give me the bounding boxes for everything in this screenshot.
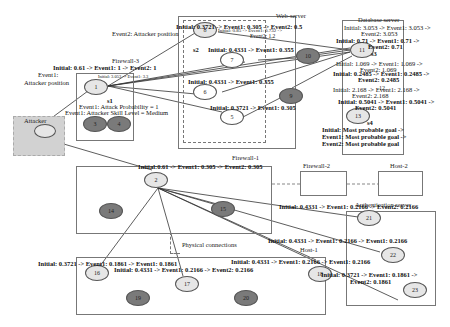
- annotation-goal-2: Event1: Most probable goal ->: [322, 133, 406, 140]
- annotation-node18-prob: Initial: 0.4331 -> Event1: 0.2166 -> Eve…: [231, 258, 370, 265]
- annotation-event2-attacker: Event2: Attacker position: [112, 30, 178, 37]
- zone-label-attacker: Attacker: [24, 117, 46, 124]
- zone-label-database-server: Database server: [358, 16, 399, 23]
- node-16[interactable]: 16: [85, 265, 109, 281]
- state-label-s3: s3: [371, 50, 377, 57]
- state-label-s4: s4: [367, 119, 373, 126]
- node-14[interactable]: 14: [99, 203, 123, 219]
- annotation-node23-prob-2: Event2: 0.1861: [350, 278, 391, 285]
- annotation-node5-prob: Initial: 0.3721 -> Event1: 0.305: [210, 104, 296, 111]
- node-1[interactable]: 1: [84, 79, 108, 95]
- annotation-node12-prob-2: Event2: 0.2485: [358, 76, 399, 83]
- zone-label-host-1: Host-1: [300, 246, 318, 253]
- annotation-goal-3: Event2: Most probable goal: [322, 140, 399, 147]
- annotation-node8-small-2: Event2: 1.2: [250, 33, 275, 40]
- annotation-goal-1: Initial: Most probable goal ->: [322, 126, 404, 133]
- zone-firewall-1: [76, 166, 272, 234]
- zone-label-physical-connections: Physical connections: [182, 241, 237, 248]
- node-17[interactable]: 17: [175, 276, 199, 292]
- annotation-node7-prob: Initial: 0.4331 -> Event1: 0.355: [208, 46, 294, 53]
- annotation-node22-prob: Initial: 0.4331 -> Event1: 0.2166 -> Eve…: [268, 237, 407, 244]
- node-2[interactable]: 2: [144, 172, 168, 188]
- node-15[interactable]: 15: [211, 201, 235, 217]
- annotation-node11-prob-2: Event2: 0.71: [368, 43, 403, 50]
- node-19[interactable]: 19: [126, 290, 150, 306]
- annotation-db-line2: Event2: 3.053: [361, 30, 397, 37]
- annotation-node6-prob: Initial: 0.4331 -> Event1: 0.355: [188, 78, 274, 85]
- annotation-node1-small: Initial: 3.053 -> Event1: 3.3: [98, 73, 148, 80]
- annotation-node23-prob-1: Initial: 0.3721 -> Event1: 0.1861 ->: [321, 271, 417, 278]
- zone-label-firewall-1: Firewall-1: [232, 154, 259, 161]
- state-label-s2: s2: [193, 46, 199, 53]
- node-4[interactable]: 4: [107, 116, 131, 132]
- node-7[interactable]: 7: [220, 52, 244, 68]
- node-5[interactable]: 5: [220, 109, 244, 125]
- attacker-node: [34, 124, 56, 138]
- zone-label-host-2: Host-2: [390, 162, 408, 169]
- zone-label-firewall-3: Firewall-3: [112, 57, 139, 64]
- annotation-node21-prob: Initial: 0.4331 -> Event1: 0.2166 -> Eve…: [279, 203, 418, 210]
- zone-host-2: [378, 171, 423, 196]
- zone-physical-connections: [170, 232, 180, 254]
- node-9[interactable]: 9: [279, 88, 303, 104]
- zone-label-web-server: Web-server: [276, 12, 306, 19]
- annotation-node2-prob: Initial:0.61 -> Event1: 0.305 -> Event2:…: [138, 163, 263, 170]
- annotation-node1-prob: Initial: 0.61 -> Event1: 1 -> Event2: 1: [53, 64, 156, 71]
- zone-label-firewall-2: Firewall-2: [303, 162, 330, 169]
- node-22[interactable]: 22: [381, 247, 405, 263]
- annotation-event1-attacker-2: Attacker position: [24, 79, 69, 86]
- node-6[interactable]: 6: [193, 84, 217, 100]
- node-10[interactable]: 10: [296, 48, 320, 64]
- annotation-node17-prob: Initial: 0.4331 -> Event1: 0.2166 -> Eve…: [114, 266, 253, 273]
- annotation-event1-attacker: Event1:: [38, 71, 58, 78]
- node-20[interactable]: 20: [234, 290, 258, 306]
- annotation-attacker-skill: Event1: Attacker Skill Level = Medium: [65, 109, 168, 116]
- zone-firewall-2: [300, 171, 347, 196]
- node-21[interactable]: 21: [357, 210, 381, 226]
- annotation-node13-prob-2: Event2: 0.5041: [355, 104, 396, 111]
- node-23[interactable]: 23: [403, 282, 427, 298]
- node-3[interactable]: 3: [83, 116, 107, 132]
